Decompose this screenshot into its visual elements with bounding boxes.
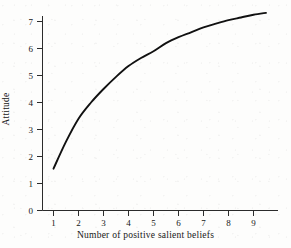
x-axis: 1 2 3 4 5 6 7 8 9 bbox=[43, 211, 279, 229]
y-tick-label-6: 6 bbox=[29, 44, 34, 54]
x-tick-label-8: 8 bbox=[226, 218, 231, 228]
x-axis-title: Number of positive salient beliefs bbox=[0, 230, 291, 240]
x-tick-label-4: 4 bbox=[126, 218, 131, 228]
y-tick-label-5: 5 bbox=[29, 71, 34, 81]
x-tick-label-9: 9 bbox=[251, 218, 256, 228]
y-tick-marks bbox=[37, 22, 43, 211]
x-tick-labels: 1 2 3 4 5 6 7 8 9 bbox=[51, 218, 256, 228]
y-tick-labels: 0 1 2 3 4 5 6 7 bbox=[29, 17, 34, 216]
x-tick-marks bbox=[54, 211, 254, 217]
y-tick-label-7: 7 bbox=[29, 17, 34, 27]
x-tick-label-5: 5 bbox=[151, 218, 156, 228]
y-axis-title: Attitude bbox=[1, 79, 11, 139]
x-tick-label-6: 6 bbox=[176, 218, 181, 228]
y-tick-label-1: 1 bbox=[29, 179, 34, 189]
x-tick-label-2: 2 bbox=[76, 218, 81, 228]
x-tick-label-7: 7 bbox=[201, 218, 206, 228]
y-tick-label-4: 4 bbox=[29, 98, 34, 108]
y-tick-label-0: 0 bbox=[29, 206, 34, 216]
chart-plot: 0 1 2 3 4 5 6 7 bbox=[0, 0, 291, 248]
x-tick-label-3: 3 bbox=[101, 218, 106, 228]
attitude-curve bbox=[54, 13, 267, 169]
y-tick-label-2: 2 bbox=[29, 152, 34, 162]
x-tick-label-1: 1 bbox=[51, 218, 56, 228]
y-tick-label-3: 3 bbox=[29, 125, 34, 135]
figure-container: 0 1 2 3 4 5 6 7 bbox=[0, 0, 291, 248]
y-axis: 0 1 2 3 4 5 6 7 bbox=[29, 16, 43, 216]
